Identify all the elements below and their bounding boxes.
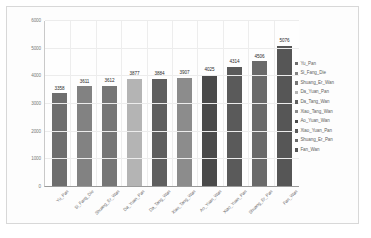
legend-item[interactable]: Si_Fang_Die — [295, 69, 355, 79]
legend-swatch-icon — [295, 139, 298, 142]
legend-item-label: Fan_Wan — [300, 148, 319, 153]
bar-value-label: 3611 — [80, 80, 89, 85]
legend-item-label: Ao_Yuan_Wan — [300, 119, 329, 124]
category-separator — [70, 21, 71, 186]
bar[interactable] — [277, 46, 292, 186]
chart-frame: 0100020003000400050006000 33583611361238… — [6, 6, 359, 224]
legend-swatch-icon — [295, 110, 298, 113]
y-axis-tick-label: 0 — [39, 185, 41, 190]
bar[interactable] — [227, 67, 242, 186]
legend-swatch-icon — [295, 81, 298, 84]
bar-value-label: 3358 — [55, 87, 65, 92]
category-separator — [248, 21, 249, 186]
legend-swatch-icon — [295, 72, 298, 75]
x-axis-tick-label: Shuang_Er_Pan — [247, 189, 273, 215]
legend-item-label: Shuang_Er_Pan — [300, 138, 332, 143]
plot-area: 3358361136123877388439074025431445065076 — [44, 21, 299, 187]
chart-legend: Yu_PanSi_Fang_DieShuang_Er_WanDa_Yuan_Pa… — [295, 59, 355, 155]
legend-item-label: Si_Fang_Die — [300, 71, 325, 76]
legend-swatch-icon — [295, 62, 298, 65]
legend-item-label: Xiao_Tang_Wan — [300, 110, 332, 115]
legend-item[interactable]: Da_Tang_Wan — [295, 97, 355, 107]
y-axis-labels: 0100020003000400050006000 — [19, 21, 43, 187]
bar[interactable] — [177, 78, 192, 186]
bar-value-label: 4025 — [205, 68, 215, 73]
legend-item[interactable]: Fan_Wan — [295, 145, 355, 155]
x-axis-tick-label: Shuang_Er_Wan — [93, 189, 120, 216]
legend-item-label: Da_Yuan_Pan — [300, 90, 328, 95]
legend-item-label: Yu_Pan — [300, 62, 315, 67]
legend-swatch-icon — [295, 148, 298, 151]
bar[interactable] — [152, 79, 167, 186]
y-axis-tick-label: 3000 — [31, 102, 41, 107]
category-separator — [274, 21, 275, 186]
legend-swatch-icon — [295, 91, 298, 94]
category-separator — [223, 21, 224, 186]
category-separator — [96, 21, 97, 186]
category-separator — [172, 21, 173, 186]
bar[interactable] — [52, 93, 67, 186]
legend-item[interactable]: Shuang_Er_Wan — [295, 78, 355, 88]
category-separator — [147, 21, 148, 186]
x-axis-tick-label: Fan_Wan — [282, 189, 299, 206]
legend-item[interactable]: Xiao_Yuan_Pan — [295, 126, 355, 136]
x-axis-labels: Yu_PanSi_Fang_DieShuang_Er_WanDa_Yuan_Pa… — [44, 189, 299, 235]
bar[interactable] — [77, 86, 92, 186]
legend-item[interactable]: Yu_Pan — [295, 59, 355, 69]
bar-value-label: 4314 — [230, 60, 240, 65]
x-axis-tick-label: Yu_Pan — [55, 189, 69, 203]
legend-item[interactable]: Xiao_Tang_Wan — [295, 107, 355, 117]
legend-swatch-icon — [295, 120, 298, 123]
y-axis-tick-label: 5000 — [31, 46, 41, 51]
x-axis-tick-label: Ao_Yuan_Wan — [198, 189, 222, 213]
legend-item[interactable]: Shuang_Er_Pan — [295, 136, 355, 146]
x-axis-tick-label: Xiao_Yuan_Pan — [222, 189, 247, 214]
bar[interactable] — [252, 61, 267, 186]
legend-item-label: Xiao_Yuan_Pan — [300, 129, 332, 134]
legend-item[interactable]: Da_Yuan_Pan — [295, 88, 355, 98]
bar-value-label: 5076 — [280, 39, 290, 44]
y-axis-tick-label: 1000 — [31, 157, 41, 162]
x-axis-tick-label: Da_Tang_Wan — [148, 189, 172, 213]
legend-swatch-icon — [295, 129, 298, 132]
legend-item-label: Shuang_Er_Wan — [300, 81, 333, 86]
legend-swatch-icon — [295, 100, 298, 103]
category-separator — [121, 21, 122, 186]
bar[interactable] — [102, 86, 117, 186]
bar-value-label: 4506 — [255, 55, 265, 60]
bar-value-label: 3612 — [105, 79, 115, 84]
bar[interactable] — [127, 79, 142, 186]
category-separator — [197, 21, 198, 186]
x-axis-tick-label: Xiao_Tang_Wan — [171, 189, 197, 215]
legend-item[interactable]: Ao_Yuan_Wan — [295, 117, 355, 127]
legend-item-label: Da_Tang_Wan — [300, 100, 329, 105]
x-axis-tick-label: Si_Fang_Die — [74, 189, 95, 210]
x-axis-tick-label: Da_Yuan_Pan — [122, 189, 145, 212]
y-axis-tick-label: 6000 — [31, 19, 41, 24]
y-axis-tick-label: 4000 — [31, 74, 41, 79]
y-axis-tick-label: 2000 — [31, 129, 41, 134]
